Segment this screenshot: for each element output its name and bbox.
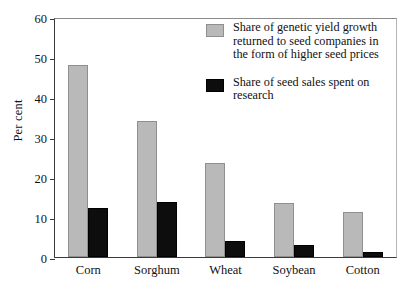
x-tick-label: Wheat: [209, 263, 242, 278]
legend-label-line: Share of seed sales spent on: [233, 76, 369, 90]
legend-label-line: research: [233, 89, 369, 103]
legend-swatch-gray: [206, 24, 224, 37]
chart-figure: Per cent 0102030405060 CornSorghumWheatS…: [0, 0, 409, 301]
bar: [343, 212, 363, 257]
bar: [68, 65, 88, 257]
legend-label: Share of seed sales spent onresearch: [233, 76, 369, 103]
chart-legend: Share of genetic yield growthreturned to…: [206, 21, 396, 117]
y-tick-label: 30: [17, 133, 47, 146]
bar: [294, 245, 314, 257]
y-tick-label: 50: [17, 53, 47, 66]
y-tick-label: 20: [17, 173, 47, 186]
x-tick-label: Corn: [76, 263, 101, 278]
x-tick-label: Sorghum: [134, 263, 180, 278]
bar: [274, 203, 294, 257]
legend-swatch-black: [206, 79, 224, 92]
legend-label-line: returned to seed companies in: [233, 35, 379, 49]
bar: [137, 121, 157, 257]
y-tick-label: 10: [17, 213, 47, 226]
bar: [225, 241, 245, 257]
legend-item: Share of genetic yield growthreturned to…: [206, 21, 396, 62]
bar-group: [55, 19, 124, 257]
legend-label: Share of genetic yield growthreturned to…: [233, 21, 379, 62]
x-tick-label: Soybean: [273, 263, 316, 278]
bar: [205, 163, 225, 257]
legend-label-line: the form of higher seed prices: [233, 48, 379, 62]
y-tick-label: 40: [17, 93, 47, 106]
legend-item: Share of seed sales spent onresearch: [206, 76, 396, 103]
legend-label-line: Share of genetic yield growth: [233, 21, 379, 35]
bar: [157, 202, 177, 257]
bar-group: [124, 19, 193, 257]
y-tick-mark: [50, 259, 55, 260]
bar: [88, 208, 108, 257]
y-tick-label: 60: [17, 13, 47, 26]
bar: [363, 252, 383, 257]
x-tick-label: Cotton: [346, 263, 380, 278]
y-tick-label: 0: [17, 253, 47, 266]
